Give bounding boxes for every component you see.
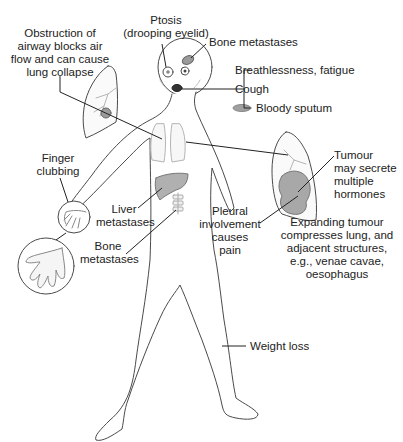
label-tumour-hormones: Tumour may secrete multiple hormones — [334, 149, 397, 201]
label-ptosis: Ptosis (drooping eyelid) — [116, 14, 216, 40]
hand-inset-small-icon — [58, 201, 90, 233]
label-bloody-sputum: Bloody sputum — [256, 102, 332, 115]
lung-cancer-diagram: Ptosis (drooping eyelid) Bone metastases… — [0, 0, 403, 442]
label-liver-metastases: Liver metastases — [96, 203, 152, 229]
lung-inset-right-icon — [272, 132, 317, 221]
label-obstruction: Obstruction of airway blocks air flow an… — [10, 27, 110, 79]
label-expanding-tumour: Expanding tumour compresses lung, and ad… — [272, 216, 402, 281]
label-bone-metastases-skull: Bone metastases — [209, 36, 298, 49]
label-cough: Cough — [235, 83, 269, 96]
label-pleural: Pleural involvement causes pain — [195, 205, 265, 257]
label-finger-clubbing: Finger clubbing — [30, 152, 86, 178]
hand-inset-large-icon — [18, 238, 74, 294]
label-bone-metastases-spine: Bone metastases — [80, 240, 136, 266]
label-breathlessness: Breathlessness, fatigue — [235, 64, 355, 77]
label-weight-loss: Weight loss — [250, 340, 309, 353]
